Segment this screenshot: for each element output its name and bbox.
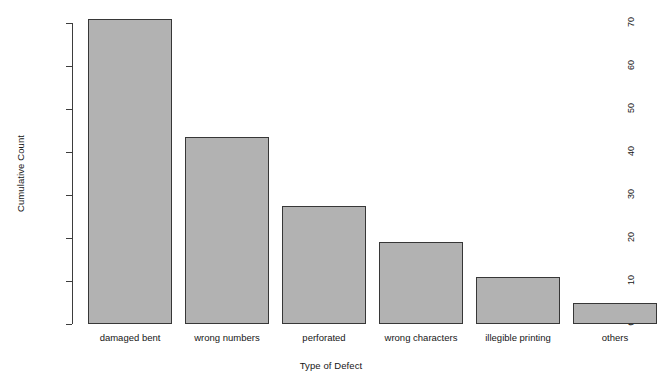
x-axis-tick-labels: damaged bentwrong numbersperforatedwrong… (72, 332, 654, 352)
bar (185, 137, 269, 324)
y-axis-title: Cumulative Count (15, 114, 26, 234)
bar (88, 19, 172, 324)
bars-layer (72, 10, 654, 325)
bar (282, 206, 366, 324)
bar (573, 303, 657, 325)
x-tick-label: others (555, 332, 662, 343)
plot-area: 010203040506070 (72, 10, 654, 325)
x-axis-title: Type of Defect (0, 360, 662, 371)
bar (379, 242, 463, 324)
bar-chart: Cumulative Count 010203040506070 damaged… (0, 0, 662, 378)
bar (476, 277, 560, 324)
